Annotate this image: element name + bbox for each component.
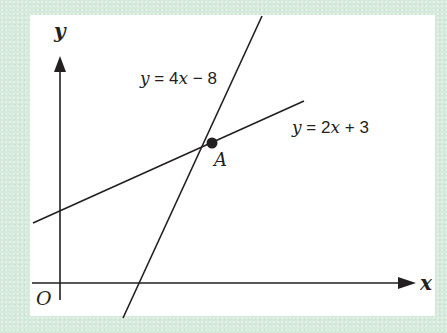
x-axis (32, 277, 416, 289)
y-axis-label: y (53, 19, 67, 43)
x-axis-arrow-icon (398, 277, 416, 289)
equation-var-y: y (139, 68, 150, 88)
point-a-label: A (212, 149, 227, 170)
point-a-marker (207, 138, 218, 149)
equation-eq: = 2 (302, 118, 331, 137)
coordinate-diagram: y x O A y = 4x − 8 y = 2x + 3 (0, 0, 447, 333)
equation-label-4x-minus-8: y = 4x − 8 (139, 68, 217, 88)
equation-rest: − 8 (188, 69, 217, 88)
x-axis-label: x (419, 271, 433, 295)
y-axis (54, 56, 66, 300)
equation-eq: = 4 (150, 69, 179, 88)
y-axis-arrow-icon (54, 56, 66, 72)
line-y-2x-plus-3 (33, 101, 304, 223)
equation-var-y: y (291, 117, 302, 137)
equation-rest: + 3 (340, 118, 369, 137)
line-y-4x-minus-8 (123, 16, 262, 318)
equation-var-x: x (178, 68, 188, 88)
equation-label-2x-plus-3: y = 2x + 3 (291, 117, 369, 137)
origin-label: O (36, 287, 52, 309)
equation-var-x: x (330, 117, 340, 137)
